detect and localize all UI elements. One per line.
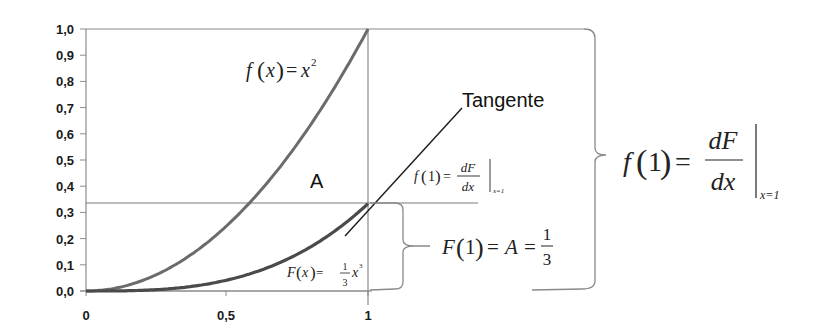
svg-text:=: = (487, 235, 499, 259)
x-tick-label: 0,5 (217, 308, 235, 323)
svg-text:F: F (441, 235, 455, 259)
svg-text:f: f (623, 146, 634, 177)
svg-text:(: ( (456, 233, 465, 262)
y-tick-label: 0,4 (56, 179, 75, 194)
svg-text:x: x (265, 59, 275, 81)
curve-f-x-squared (86, 29, 368, 291)
label-small-derivative: f ( 1 ) = dF dx x=1 (414, 159, 504, 195)
svg-text:): ) (276, 57, 284, 83)
svg-text:): ) (475, 233, 484, 262)
svg-text:=: = (675, 146, 691, 177)
y-axis: 0,00,10,20,30,40,50,60,70,80,91,0 (56, 22, 86, 299)
y-tick-label: 0,5 (56, 153, 74, 168)
svg-text:x: x (301, 265, 309, 280)
chart-canvas: 0,00,10,20,30,40,50,60,70,80,91,0 0 0,5 … (0, 0, 819, 335)
svg-text:3: 3 (543, 250, 552, 269)
svg-text:3: 3 (359, 262, 363, 270)
curve-F-x-cubed (86, 204, 368, 291)
x-tick-label: 1 (364, 308, 371, 323)
area-label: A (310, 170, 324, 192)
svg-text:(: ( (257, 57, 265, 83)
y-tick-label: 1,0 (56, 22, 74, 37)
y-tick-label: 0,0 (56, 284, 74, 299)
svg-text:x: x (351, 265, 359, 280)
svg-text:dx: dx (462, 179, 475, 194)
svg-text:F: F (286, 265, 296, 280)
y-tick-label: 0,1 (56, 258, 74, 273)
label-F-x-cubed: F ( x ) = 1 3 x 3 (286, 261, 363, 288)
tangent-label: Tangente (462, 89, 544, 111)
svg-text:=: = (524, 235, 536, 259)
label-big-derivative: f ( 1 ) = dF dx x=1 (623, 124, 779, 202)
y-tick-label: 0,3 (56, 205, 74, 220)
small-brace (370, 203, 430, 290)
y-tick-label: 0,2 (56, 232, 74, 247)
svg-text:(: ( (421, 167, 427, 186)
label-F-1-equals-A: F ( 1 ) = A = 1 3 (441, 225, 553, 269)
svg-text:1: 1 (465, 235, 476, 259)
y-tick-label: 0,8 (56, 74, 74, 89)
svg-text:dx: dx (711, 167, 736, 196)
svg-text:A: A (503, 235, 518, 259)
y-tick-label: 0,6 (56, 127, 74, 142)
svg-text:f: f (246, 59, 254, 82)
x-tick-label: 0 (82, 308, 89, 323)
y-tick-label: 0,9 (56, 48, 74, 63)
svg-text:(: ( (636, 143, 647, 181)
svg-text:): ) (435, 167, 441, 186)
svg-text:): ) (660, 143, 671, 181)
svg-text:1: 1 (343, 261, 348, 272)
svg-text:x=1: x=1 (759, 188, 779, 202)
svg-text:): ) (310, 263, 316, 282)
svg-text:2: 2 (311, 56, 317, 68)
svg-text:dF: dF (709, 126, 739, 155)
x-axis: 0 0,5 1 (80, 291, 372, 323)
svg-text:1: 1 (428, 169, 435, 184)
svg-text:dF: dF (461, 160, 477, 175)
svg-text:f: f (414, 169, 420, 184)
svg-text:3: 3 (343, 277, 348, 288)
svg-text:x: x (300, 59, 310, 81)
svg-text:x=1: x=1 (492, 187, 504, 195)
svg-text:=: = (443, 169, 451, 184)
svg-text:1: 1 (543, 225, 552, 244)
svg-text:=: = (316, 265, 323, 280)
y-tick-label: 0,7 (56, 101, 74, 116)
svg-text:=: = (286, 59, 297, 81)
label-f-x-squared: f ( x ) = x 2 (246, 56, 317, 83)
